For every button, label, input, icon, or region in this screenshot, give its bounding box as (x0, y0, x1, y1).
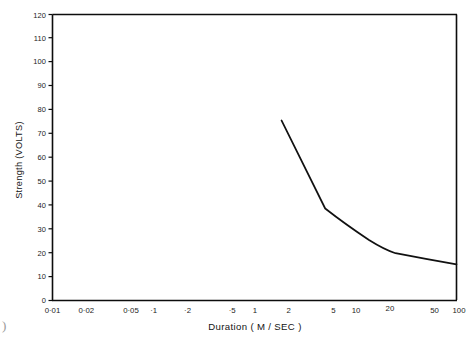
x-tick-label-5: ·5 (229, 306, 237, 315)
y-tick-label-120: 120 (33, 11, 46, 20)
x-tick-label-4: ·2 (184, 306, 191, 315)
y-tick-label-70: 70 (37, 129, 46, 138)
x-tick-label-3: ·1 (150, 306, 157, 315)
x-tick-label-1: 0·02 (78, 306, 94, 315)
x-axis-tick-labels: 0·01 0·02 0·05 ·1 ·2 ·5 1 2 5 10 20 50 1… (45, 304, 466, 314)
y-tick-label-90: 90 (37, 81, 46, 90)
y-axis-tick-labels: 0 10 20 30 40 50 60 70 80 90 100 110 120 (33, 11, 46, 305)
x-tick-label-2: 0·05 (123, 306, 139, 315)
y-tick-label-100: 100 (33, 57, 46, 66)
scan-artifact-mark: ) (2, 318, 6, 333)
y-tick-label-80: 80 (37, 105, 46, 114)
data-series-strength-duration-curve (282, 120, 457, 264)
y-tick-label-20: 20 (37, 249, 46, 258)
x-tick-label-6: 1 (253, 306, 257, 315)
chart-svg: 0 10 20 30 40 50 60 70 80 90 100 110 120… (0, 0, 475, 340)
x-tick-label-11: 50 (430, 306, 439, 315)
y-axis-title: Strength (VOLTS) (14, 121, 24, 199)
y-tick-label-40: 40 (37, 201, 46, 210)
y-tick-label-0: 0 (42, 296, 46, 305)
y-tick-label-50: 50 (37, 177, 46, 186)
y-tick-label-10: 10 (37, 272, 46, 281)
y-tick-label-30: 30 (37, 225, 46, 234)
strength-duration-chart: 0 10 20 30 40 50 60 70 80 90 100 110 120… (0, 0, 475, 340)
x-tick-label-8: 5 (331, 306, 336, 315)
plot-frame (52, 15, 457, 301)
y-tick-label-60: 60 (37, 153, 46, 162)
x-tick-label-0: 0·01 (45, 306, 61, 315)
x-tick-label-10: 20 (386, 304, 395, 313)
x-tick-label-7: 2 (287, 306, 291, 315)
y-tick-label-110: 110 (34, 34, 46, 43)
x-tick-label-9: 10 (352, 306, 361, 315)
x-tick-label-12: 100 (452, 306, 466, 315)
x-axis-title: Duration ( M / SEC ) (208, 321, 301, 332)
